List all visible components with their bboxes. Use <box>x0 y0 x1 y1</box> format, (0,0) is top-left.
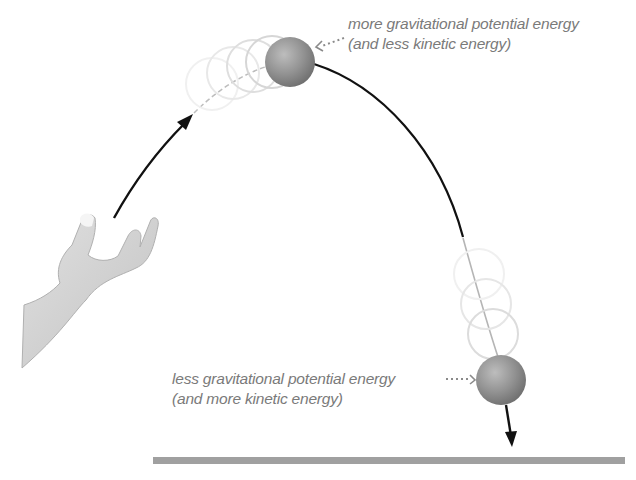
label-less-potential-energy: less gravitational potential energy (and… <box>172 369 395 409</box>
label-more-potential-energy: more gravitational potential energy (and… <box>348 14 579 54</box>
ground-line <box>153 457 625 464</box>
ball-at-peak <box>265 37 315 87</box>
pointer-bottom-icon <box>446 375 475 384</box>
hand-icon <box>22 214 158 369</box>
ghost-balls-bottom <box>454 249 518 359</box>
label-top-line2: (and less kinetic energy) <box>348 34 579 54</box>
ball-falling <box>476 355 526 405</box>
arrowhead-down-icon <box>505 431 517 447</box>
trajectory-down <box>506 405 511 436</box>
trajectory-rising-faded <box>194 66 268 113</box>
label-bottom-line1: less gravitational potential energy <box>172 369 395 389</box>
trajectory-rising <box>114 123 185 218</box>
label-top-line1: more gravitational potential energy <box>348 14 579 34</box>
pointer-top-icon <box>316 38 344 51</box>
energy-diagram: more gravitational potential energy (and… <box>0 0 636 480</box>
trajectory-falling <box>314 64 463 237</box>
label-bottom-line2: (and more kinetic energy) <box>172 389 395 409</box>
